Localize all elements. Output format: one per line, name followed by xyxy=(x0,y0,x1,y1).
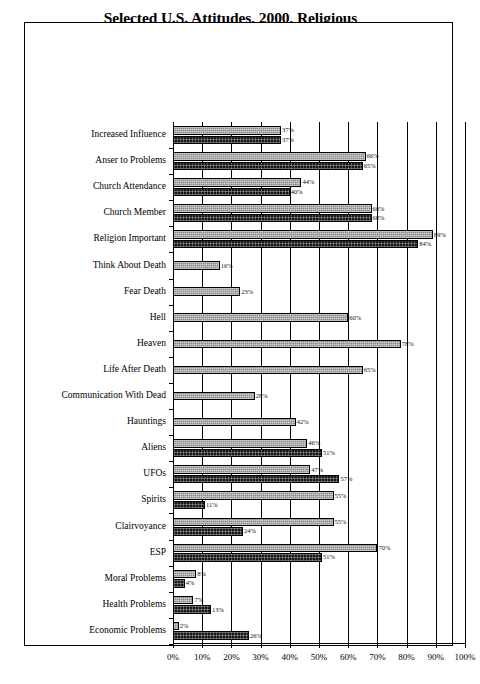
bar-row: Think About Death16% xyxy=(173,253,465,279)
plot-area: 0%10%20%30%40%50%60%70%80%90%100% Increa… xyxy=(173,122,465,644)
bar-series-light: 44% xyxy=(173,178,301,187)
bar-value-label: 51% xyxy=(323,450,335,457)
bar-series-light: 2% xyxy=(173,622,179,631)
bar-value-label: 28% xyxy=(256,393,268,400)
bar-series-light: 16% xyxy=(173,261,220,270)
bar-series-light: 8% xyxy=(173,570,196,579)
bar-row: Church Member68%68% xyxy=(173,200,465,226)
bar-series-light: 55% xyxy=(173,491,334,500)
bar-series-light: 23% xyxy=(173,287,240,296)
gridline-100 xyxy=(465,122,466,644)
bar-value-label: 8% xyxy=(197,571,206,578)
bar-row: Communication With Dead28% xyxy=(173,383,465,409)
bar-series-dark: 51% xyxy=(173,553,322,562)
bar-value-label: 47% xyxy=(311,466,323,473)
category-label: Think About Death xyxy=(6,261,166,271)
category-label: Church Member xyxy=(6,208,166,218)
category-tick xyxy=(169,644,173,645)
bar-row: Heaven78% xyxy=(173,331,465,357)
x-tick xyxy=(377,644,378,648)
bar-series-light: 47% xyxy=(173,465,310,474)
bar-series-dark: 68% xyxy=(173,214,372,223)
bar-value-label: 84% xyxy=(419,241,431,248)
bar-row: Increased Influence37%37% xyxy=(173,122,465,148)
category-label: Church Attendance xyxy=(6,182,166,192)
x-tick xyxy=(261,644,262,648)
bar-value-label: 70% xyxy=(378,545,390,552)
bar-series-light: 7% xyxy=(173,596,193,605)
bar-value-label: 68% xyxy=(373,215,385,222)
bar-row: Moral Problems8%4% xyxy=(173,566,465,592)
bar-value-label: 57% xyxy=(340,476,352,483)
bar-series-dark: 11% xyxy=(173,501,205,510)
bar-value-label: 37% xyxy=(282,127,294,134)
x-tick xyxy=(348,644,349,648)
category-label: Fear Death xyxy=(6,287,166,297)
bar-series-dark: 51% xyxy=(173,449,322,458)
bar-row: Hell60% xyxy=(173,305,465,331)
bar-value-label: 24% xyxy=(244,528,256,535)
bar-series-light: 60% xyxy=(173,313,348,322)
category-label: Economic Problems xyxy=(6,626,166,636)
bar-row: Religion Important89%84% xyxy=(173,226,465,252)
bar-value-label: 65% xyxy=(364,163,376,170)
bar-series-light: 55% xyxy=(173,518,334,527)
bar-value-label: 55% xyxy=(335,519,347,526)
bar-series-light: 28% xyxy=(173,392,255,401)
bar-series-light: 89% xyxy=(173,230,433,239)
bar-series-light: 70% xyxy=(173,544,377,553)
bar-row: Church Attendance44%40% xyxy=(173,174,465,200)
bar-value-label: 89% xyxy=(434,231,446,238)
category-label: Spirits xyxy=(6,495,166,505)
bar-value-label: 42% xyxy=(297,419,309,426)
bar-row: Aliens46%51% xyxy=(173,435,465,461)
bar-series-light: 37% xyxy=(173,126,281,135)
bar-series-dark: 26% xyxy=(173,631,249,640)
bar-row: ESP70%51% xyxy=(173,540,465,566)
bar-value-label: 65% xyxy=(364,367,376,374)
bar-row: Health Problems7%13% xyxy=(173,592,465,618)
bar-value-label: 66% xyxy=(367,153,379,160)
bar-value-label: 11% xyxy=(206,502,218,509)
category-label: Health Problems xyxy=(6,600,166,610)
bar-series-dark: 24% xyxy=(173,527,243,536)
category-label: Heaven xyxy=(6,339,166,349)
bar-series-light: 78% xyxy=(173,340,401,349)
category-label: Hell xyxy=(6,313,166,323)
bar-value-label: 55% xyxy=(335,492,347,499)
x-tick xyxy=(290,644,291,648)
bar-row: Spirits55%11% xyxy=(173,487,465,513)
category-label: ESP xyxy=(6,548,166,558)
bar-series-dark: 4% xyxy=(173,579,185,588)
bar-row: Hauntings42% xyxy=(173,409,465,435)
chart-frame: 0%10%20%30%40%50%60%70%80%90%100% Increa… xyxy=(24,22,453,646)
bar-series-light: 68% xyxy=(173,204,372,213)
bar-row: Clairvoyance55%24% xyxy=(173,514,465,540)
bar-series-dark: 13% xyxy=(173,605,211,614)
x-tick xyxy=(319,644,320,648)
x-tick xyxy=(202,644,203,648)
bar-series-dark: 84% xyxy=(173,240,418,249)
bar-row: Economic Problems2%26% xyxy=(173,618,465,644)
bar-value-label: 46% xyxy=(308,440,320,447)
category-label: Increased Influence xyxy=(6,130,166,140)
x-tick xyxy=(436,644,437,648)
bar-series-dark: 65% xyxy=(173,162,363,171)
bar-series-light: 66% xyxy=(173,152,366,161)
bar-value-label: 51% xyxy=(323,554,335,561)
bar-row: Life After Death65% xyxy=(173,357,465,383)
bar-series-dark: 57% xyxy=(173,475,339,484)
bar-value-label: 40% xyxy=(291,189,303,196)
category-label: Life After Death xyxy=(6,365,166,375)
bar-value-label: 78% xyxy=(402,341,414,348)
category-label: UFOs xyxy=(6,469,166,479)
x-tick-label: 100% xyxy=(448,652,480,662)
bar-value-label: 7% xyxy=(194,597,203,604)
x-tick xyxy=(173,644,174,648)
bar-value-label: 37% xyxy=(282,137,294,144)
bar-value-label: 2% xyxy=(180,623,189,630)
category-label: Hauntings xyxy=(6,417,166,427)
x-tick xyxy=(407,644,408,648)
bar-value-label: 13% xyxy=(212,606,224,613)
bar-series-light: 65% xyxy=(173,366,363,375)
